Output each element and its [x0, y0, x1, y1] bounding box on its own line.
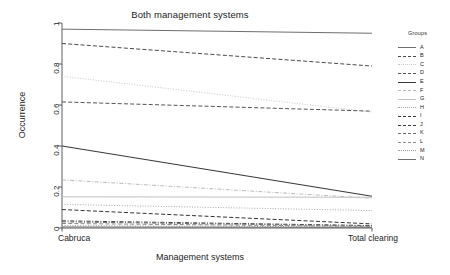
chart-figure: Both management systems Occurrence Manag… [0, 0, 450, 275]
legend-item-H[interactable]: H [398, 103, 450, 112]
legend-item-label: K [420, 130, 424, 136]
legend-item-L[interactable]: L [398, 138, 450, 147]
series-line-I [62, 210, 372, 224]
legend-item-label: C [420, 62, 424, 68]
legend-line-sample-K [398, 130, 416, 136]
legend-line-sample-H [398, 104, 416, 110]
legend-line-sample-M [398, 147, 416, 153]
series-line-B [62, 44, 372, 67]
legend-line-sample-D [398, 70, 416, 76]
legend-item-label: M [420, 148, 425, 154]
y-tick-label-0: 0 [52, 227, 61, 267]
legend-item-D[interactable]: D [398, 69, 450, 78]
legend-item-C[interactable]: C [398, 60, 450, 69]
legend-item-N[interactable]: N [398, 155, 450, 164]
legend-item-label: J [420, 122, 423, 128]
legend-line-sample-E [398, 79, 416, 85]
legend-line-sample-I [398, 113, 416, 119]
legend-line-sample-N [398, 156, 416, 162]
legend-line-sample-B [398, 53, 416, 59]
chart-title: Both management systems [0, 9, 380, 20]
legend-item-J[interactable]: J [398, 120, 450, 129]
legend-item-label: I [420, 113, 422, 119]
y-tick-label-0.2: 0.2 [52, 186, 61, 226]
legend-item-label: A [420, 45, 424, 51]
legend-item-F[interactable]: F [398, 86, 450, 95]
series-line-E [62, 146, 372, 196]
series-line-A [62, 29, 372, 33]
y-tick-label-0.8: 0.8 [52, 63, 61, 103]
legend-item-label: H [420, 105, 424, 111]
legend-item-label: L [420, 139, 423, 145]
legend: Groups ABCDEFGHIJKLMN [398, 30, 450, 163]
legend-items: ABCDEFGHIJKLMN [398, 43, 450, 163]
series-line-H [62, 204, 372, 210]
legend-line-sample-F [398, 87, 416, 93]
y-tick-label-1: 1 [52, 22, 61, 62]
legend-item-E[interactable]: E [398, 77, 450, 86]
legend-item-label: F [420, 88, 423, 94]
legend-item-label: N [420, 156, 424, 162]
legend-line-sample-G [398, 96, 416, 102]
y-axis-title: Occurrence [17, 55, 27, 175]
legend-item-A[interactable]: A [398, 43, 450, 52]
legend-line-sample-J [398, 122, 416, 128]
legend-item-K[interactable]: K [398, 129, 450, 138]
legend-item-M[interactable]: M [398, 146, 450, 155]
legend-item-B[interactable]: B [398, 52, 450, 61]
legend-item-G[interactable]: G [398, 95, 450, 104]
y-tick-label-0.6: 0.6 [52, 104, 61, 144]
legend-item-label: D [420, 70, 424, 76]
legend-line-sample-A [398, 44, 416, 50]
legend-item-I[interactable]: I [398, 112, 450, 121]
legend-line-sample-C [398, 61, 416, 67]
legend-item-label: E [420, 79, 424, 85]
legend-title: Groups [408, 30, 450, 36]
legend-item-label: G [420, 96, 424, 102]
legend-line-sample-L [398, 139, 416, 145]
x-tick-label-total-clearing: Total clearing [348, 233, 398, 243]
legend-item-label: B [420, 53, 424, 59]
y-tick-label-0.4: 0.4 [52, 145, 61, 185]
x-tick-label-cabruca: Cabruca [58, 233, 90, 243]
